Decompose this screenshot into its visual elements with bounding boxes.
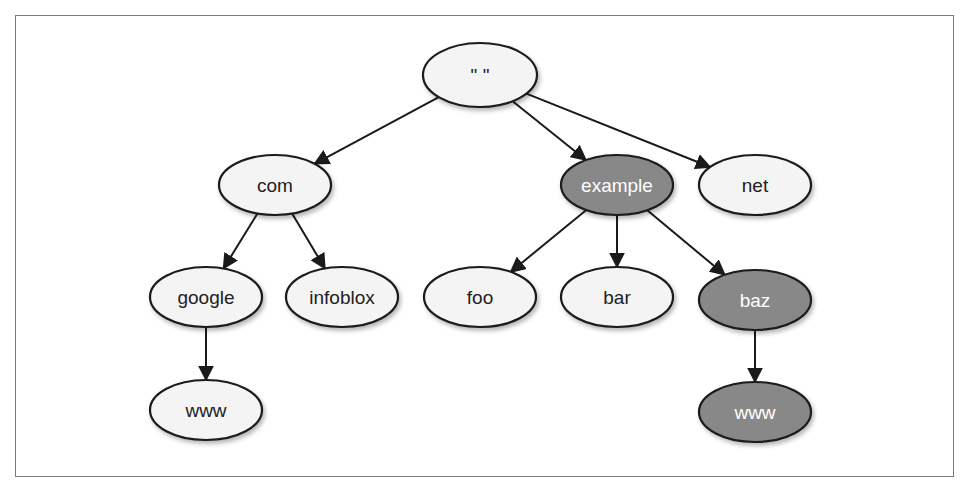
node-label: bar	[603, 287, 631, 308]
nodes-group: " "comexamplenetgoogleinfobloxfoobarbazw…	[150, 43, 811, 442]
edge-arrow-example-to-baz	[647, 210, 724, 275]
node-infoblox: infoblox	[286, 267, 398, 327]
node-label: " "	[471, 65, 490, 86]
node-google: google	[150, 267, 262, 327]
node-net: net	[699, 155, 811, 215]
node-label: com	[257, 175, 293, 196]
node-example: example	[561, 155, 673, 215]
edge-arrow-root-to-com	[315, 97, 439, 164]
node-label: google	[177, 287, 234, 308]
edge-arrow-com-to-infoblox	[292, 214, 325, 269]
node-label: baz	[740, 290, 771, 311]
node-label: www	[184, 400, 226, 421]
node-foo: foo	[424, 267, 536, 327]
edge-arrow-example-to-foo	[511, 210, 587, 272]
dns-tree-diagram: " "comexamplenetgoogleinfobloxfoobarbazw…	[0, 0, 965, 486]
node-baz: baz	[699, 270, 811, 330]
edges-group	[206, 94, 755, 382]
node-root: " "	[423, 43, 537, 107]
edge-arrow-root-to-example	[513, 101, 586, 160]
node-www-google: www	[150, 380, 262, 440]
node-label: example	[581, 175, 653, 196]
node-label: foo	[467, 287, 493, 308]
node-label: net	[742, 175, 769, 196]
node-label: infoblox	[309, 287, 375, 308]
node-label: www	[733, 402, 775, 423]
edge-arrow-com-to-google	[224, 213, 258, 268]
node-com: com	[219, 155, 331, 215]
node-www-baz: www	[699, 382, 811, 442]
node-bar: bar	[561, 267, 673, 327]
